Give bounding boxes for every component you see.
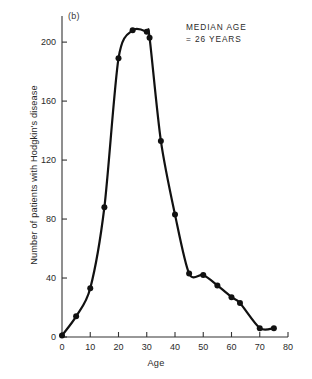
data-point-marker xyxy=(186,271,192,277)
x-tick-label: 10 xyxy=(85,342,95,352)
axes xyxy=(62,16,288,337)
data-point-marker xyxy=(200,272,206,278)
data-point-marker xyxy=(214,282,220,288)
x-tick-label: 20 xyxy=(113,342,123,352)
y-tick-label: 120 xyxy=(20,155,56,165)
data-point-marker xyxy=(237,300,243,306)
y-tick-label: 80 xyxy=(20,214,56,224)
data-point-marker xyxy=(73,313,79,319)
x-axis-title: Age xyxy=(0,358,312,368)
x-tick-label: 30 xyxy=(142,342,152,352)
y-tick-label: 200 xyxy=(20,37,56,47)
y-axis-title: Number of patients with Hodgkin's diseas… xyxy=(29,55,39,295)
data-point-marker xyxy=(59,333,65,339)
x-tick-label: 80 xyxy=(283,342,293,352)
median-age-annotation-line1: MEDIAN AGE xyxy=(186,22,247,34)
data-point-marker xyxy=(271,325,277,331)
series-line xyxy=(62,29,274,336)
x-tick-label: 0 xyxy=(59,342,64,352)
data-point-marker xyxy=(229,294,235,300)
x-tick-label: 50 xyxy=(198,342,208,352)
axis-ticks xyxy=(62,42,288,337)
data-point-marker xyxy=(144,29,150,35)
y-tick-label: 160 xyxy=(20,96,56,106)
hodgkins-age-distribution-figure: (b) MEDIAN AGE = 26 YEARS Number of pati… xyxy=(0,0,312,379)
median-age-annotation-line2: = 26 YEARS xyxy=(186,34,247,46)
data-point-marker xyxy=(257,325,263,331)
data-point-marker xyxy=(130,27,136,33)
x-tick-label: 60 xyxy=(226,342,236,352)
data-point-marker xyxy=(101,204,107,210)
data-point-marker xyxy=(116,55,122,61)
panel-label: (b) xyxy=(68,11,80,21)
data-point-marker xyxy=(87,285,93,291)
median-age-annotation: MEDIAN AGE = 26 YEARS xyxy=(186,22,247,45)
data-point-marker xyxy=(158,138,164,144)
data-series-line xyxy=(62,29,274,336)
plot-area xyxy=(0,0,312,379)
y-tick-label: 0 xyxy=(20,332,56,342)
y-tick-label: 40 xyxy=(20,273,56,283)
data-point-marker xyxy=(147,35,153,41)
x-tick-label: 40 xyxy=(170,342,180,352)
data-point-marker xyxy=(172,212,178,218)
x-tick-label: 70 xyxy=(255,342,265,352)
